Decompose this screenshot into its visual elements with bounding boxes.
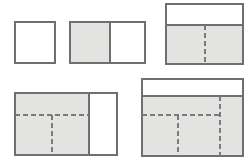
white-side-panel	[89, 93, 117, 155]
white-top-band	[142, 79, 243, 96]
shaded-lower-block	[142, 96, 243, 156]
banded-rectangle-with-center-partition	[166, 4, 243, 64]
diagram-canvas	[0, 0, 252, 163]
white-cell	[15, 22, 55, 63]
two-cell-rectangle	[70, 22, 145, 63]
white-right-cell	[110, 22, 145, 63]
rectangle-partition-diagram	[0, 0, 252, 163]
shaded-left-cell	[70, 22, 110, 63]
white-top-band	[166, 4, 243, 25]
unit-square	[15, 22, 55, 63]
banded-rectangle-with-three-partitions	[142, 79, 243, 156]
shaded-block-with-white-side-panel	[15, 93, 117, 155]
